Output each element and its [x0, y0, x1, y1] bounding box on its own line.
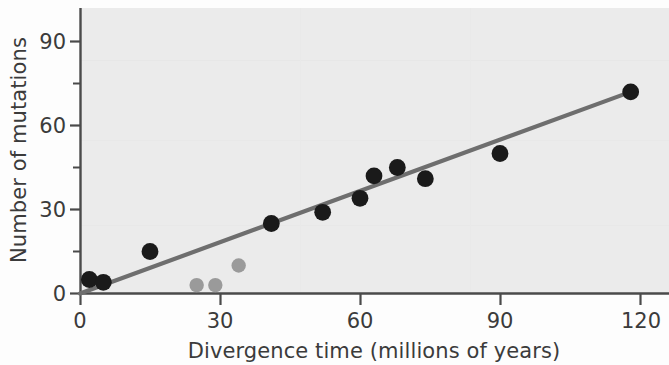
scatter-plot: 0 30 60 90 0 30 60 90 120 Divergence tim… — [0, 0, 669, 365]
x-tick-label-60: 60 — [347, 309, 374, 333]
data-point — [263, 215, 280, 232]
y-tick-label-60: 60 — [39, 114, 66, 138]
y-tick-label-30: 30 — [39, 198, 66, 222]
data-point — [352, 190, 369, 207]
data-point — [142, 243, 159, 260]
plot-area-background — [80, 8, 669, 293]
data-point — [231, 258, 245, 272]
x-tick-label-120: 120 — [621, 309, 661, 333]
chart-figure: 0 30 60 90 0 30 60 90 120 Divergence tim… — [0, 0, 669, 365]
data-point — [95, 274, 112, 291]
data-point — [81, 271, 98, 288]
x-axis-major-ticks — [81, 293, 641, 305]
x-axis-title: Divergence time (millions of years) — [188, 339, 561, 363]
x-tick-label-30: 30 — [207, 309, 234, 333]
y-tick-label-90: 90 — [39, 30, 66, 54]
data-point — [492, 145, 509, 162]
data-point — [208, 278, 222, 292]
data-point — [389, 159, 406, 176]
x-tick-label-0: 0 — [73, 309, 86, 333]
x-tick-label-90: 90 — [487, 309, 514, 333]
y-tick-label-0: 0 — [53, 282, 66, 306]
data-point — [189, 278, 203, 292]
data-point — [622, 84, 639, 101]
y-axis-minor-ticks — [73, 84, 80, 252]
data-point — [417, 170, 434, 187]
data-point — [366, 168, 383, 185]
data-point — [314, 204, 331, 221]
y-axis-title: Number of mutations — [7, 37, 31, 263]
